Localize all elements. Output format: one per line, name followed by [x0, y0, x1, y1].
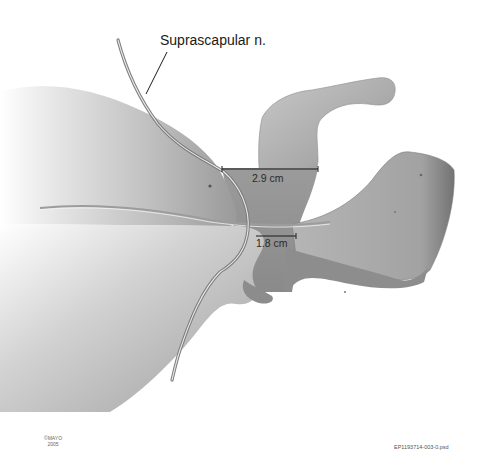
acromion-process: [259, 78, 396, 180]
suprascapular-nerve-label: Suprascapular n.: [160, 32, 266, 48]
measurement-label-upper: 2.9 cm: [252, 172, 284, 184]
copyright-line-2: 2005: [44, 441, 62, 447]
muscle-upper: [0, 86, 237, 226]
file-id: EP1193714-003-0.psd: [394, 444, 449, 450]
scapula-illustration: [0, 0, 484, 473]
muscle-lower: [0, 224, 264, 412]
measurement-label-lower: 1.8 cm: [256, 237, 288, 249]
label-leader-line: [146, 52, 167, 94]
anatomy-drawing: [0, 0, 484, 473]
copyright-notice: ©MAYO 2005: [44, 435, 62, 447]
